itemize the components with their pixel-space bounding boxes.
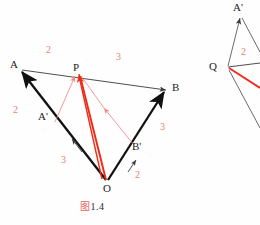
scan-speck: ˙ <box>86 58 88 63</box>
caption-prefix-glyph: 图 <box>80 201 91 212</box>
point-Bprime: B' <box>132 141 141 152</box>
scan-speck: .˙ <box>43 128 46 133</box>
scan-speck: ˙. <box>148 152 151 157</box>
ratio-PB: 3 <box>116 52 121 62</box>
point-Aprime-side: A' <box>233 2 243 13</box>
ratio-side: 2 <box>241 47 246 57</box>
segment-AB <box>22 70 166 90</box>
figure-canvas: A P B O A' B' 2 3 2 3 3 2 .˙ ˙. ˙ Q A' 2… <box>0 0 260 225</box>
figure-caption: 图1.4 <box>80 202 105 212</box>
caption-number: 1.4 <box>91 201 105 212</box>
ratio-OA-upper: 2 <box>13 105 18 115</box>
ratio-OA-lower: 3 <box>61 155 66 165</box>
point-O: O <box>103 183 111 194</box>
side-diagram-group <box>228 18 260 128</box>
point-P: P <box>73 62 79 73</box>
point-Q: Q <box>209 61 217 72</box>
point-A: A <box>10 59 18 70</box>
point-Aprime: A' <box>38 111 48 122</box>
point-B: B <box>172 82 179 93</box>
ratio-OB-lower: 2 <box>135 170 140 180</box>
ratio-AP: 2 <box>46 45 51 55</box>
ratio-OB-upper: 3 <box>160 122 165 132</box>
arrow-Aprime-to-P <box>55 76 75 122</box>
vector-OB <box>108 92 164 180</box>
